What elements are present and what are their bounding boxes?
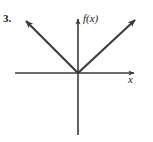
x-axis-label: x bbox=[128, 74, 133, 85]
figure-container: 3. f(x) x bbox=[0, 0, 153, 142]
function-ray-right bbox=[78, 20, 135, 73]
y-axis-label: f(x) bbox=[83, 13, 98, 24]
problem-number-label: 3. bbox=[3, 13, 11, 24]
function-curve-group bbox=[26, 20, 135, 73]
function-ray-left bbox=[26, 21, 78, 73]
function-graph bbox=[0, 0, 153, 142]
